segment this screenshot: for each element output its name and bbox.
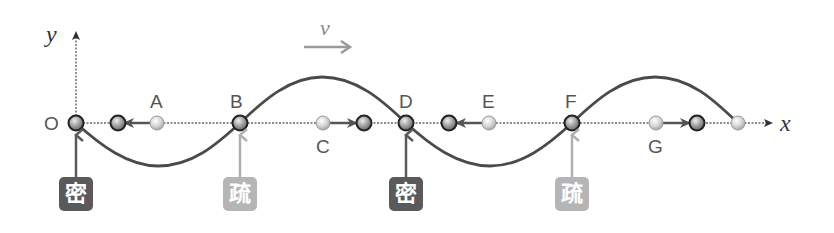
x-axis-label: x bbox=[779, 110, 791, 136]
origin-label: O bbox=[44, 113, 59, 134]
ball-g-equilibrium bbox=[649, 116, 663, 130]
ball-a-displaced bbox=[111, 116, 126, 131]
point-label-g: G bbox=[648, 136, 663, 157]
ball-end-equilibrium bbox=[731, 116, 745, 130]
ball-o bbox=[69, 116, 84, 131]
ball-b bbox=[233, 116, 248, 131]
compression-tag-d: 密 bbox=[389, 177, 423, 211]
ball-g-displaced bbox=[690, 116, 705, 131]
point-label-d: D bbox=[399, 91, 413, 112]
y-axis-label: y bbox=[44, 21, 57, 47]
ball-e-displaced bbox=[442, 116, 457, 131]
rarefaction-tag-f: 疏 bbox=[555, 177, 589, 211]
point-label-f: F bbox=[565, 91, 577, 112]
ball-e-equilibrium bbox=[482, 116, 496, 130]
point-label-a: A bbox=[150, 91, 163, 112]
compression-tag-o: 密 bbox=[59, 177, 93, 211]
point-label-c: C bbox=[316, 136, 330, 157]
point-label-b: B bbox=[230, 91, 243, 112]
ball-c-displaced bbox=[357, 116, 372, 131]
velocity-label: v bbox=[320, 15, 330, 40]
point-label-e: E bbox=[482, 91, 495, 112]
ball-c-equilibrium bbox=[316, 116, 330, 130]
ball-f bbox=[565, 116, 580, 131]
ball-a-equilibrium bbox=[150, 116, 164, 130]
rarefaction-tag-b: 疏 bbox=[223, 177, 257, 211]
ball-d bbox=[399, 116, 414, 131]
